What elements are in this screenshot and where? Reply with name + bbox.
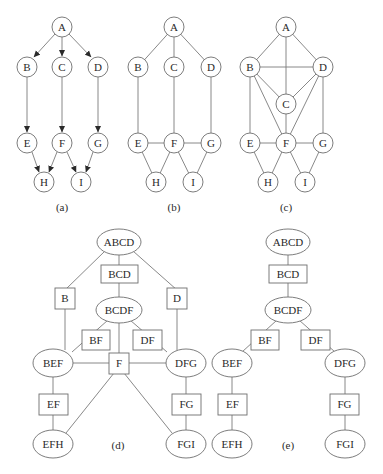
- clique-label: EFH: [43, 438, 64, 450]
- panel-b-nodes: A B C D E F G H I: [128, 17, 221, 192]
- panel-b-moral-graph: A B C D E F G H I (b): [128, 17, 221, 214]
- separator-label: DF: [140, 334, 154, 346]
- separator-ef: EF: [39, 394, 68, 415]
- caption-b: (b): [168, 201, 181, 214]
- node-h: H: [258, 172, 278, 192]
- panel-d-junction-graph: ABCD BCD B D BCDF BF DF BEF F DFG EF FG …: [33, 229, 206, 458]
- node-label: I: [303, 176, 307, 188]
- clique-fgi: FGI: [325, 430, 365, 458]
- separator-label: BF: [258, 334, 271, 346]
- clique-bcdf: BCDF: [265, 297, 311, 323]
- node-b: B: [128, 57, 148, 77]
- separator-f: F: [109, 353, 129, 374]
- node-label: G: [207, 137, 215, 149]
- node-label: I: [191, 176, 195, 188]
- separator-bf: BF: [251, 330, 279, 350]
- separator-bf: BF: [82, 330, 110, 350]
- separator-b: B: [55, 288, 75, 309]
- node-label: E: [135, 137, 142, 149]
- node-label: E: [24, 137, 31, 149]
- node-label: B: [23, 61, 30, 73]
- clique-label: ABCD: [273, 236, 304, 248]
- panel-c-nodes: A B C D E F G H I: [240, 17, 333, 192]
- node-g: G: [313, 133, 333, 153]
- node-i: I: [71, 172, 91, 192]
- node-i: I: [183, 172, 203, 192]
- caption-c: (c): [280, 201, 293, 214]
- clique-label: FGI: [177, 438, 195, 450]
- separator-bcd: BCD: [101, 265, 138, 283]
- node-f: F: [52, 133, 72, 153]
- clique-label: BEF: [43, 357, 63, 369]
- panel-b-edges: [138, 27, 211, 182]
- node-e: E: [128, 133, 148, 153]
- separator-label: EF: [47, 398, 60, 410]
- separator-bcd: BCD: [269, 265, 307, 283]
- separator-df: DF: [301, 330, 330, 350]
- node-label: A: [170, 21, 178, 33]
- panel-a-nodes: A B C D E F G H I: [17, 17, 108, 192]
- clique-bef: BEF: [212, 349, 252, 377]
- separator-label: BCD: [108, 268, 131, 280]
- separator-label: B: [61, 292, 68, 304]
- node-label: I: [79, 176, 83, 188]
- separator-label: DF: [308, 334, 322, 346]
- node-label: B: [246, 61, 253, 73]
- caption-e: (e): [282, 439, 295, 452]
- clique-label: DFG: [334, 357, 356, 369]
- caption-a: (a): [56, 201, 69, 214]
- clique-label: BCDF: [274, 304, 303, 316]
- clique-label: ABCD: [104, 236, 135, 248]
- clique-efh: EFH: [212, 430, 252, 458]
- node-i: I: [295, 172, 315, 192]
- node-g: G: [201, 133, 221, 153]
- node-d: D: [88, 57, 108, 77]
- node-label: C: [282, 98, 289, 110]
- caption-d: (d): [112, 439, 125, 452]
- clique-dfg: DFG: [166, 349, 206, 377]
- node-b: B: [17, 57, 37, 77]
- node-f: F: [164, 133, 184, 153]
- node-label: A: [282, 21, 290, 33]
- node-h: H: [146, 172, 166, 192]
- edge-f-efh: [66, 373, 114, 433]
- edge-abcd-b: [65, 251, 105, 290]
- separator-label: F: [116, 357, 122, 369]
- edge-g-i: [86, 152, 93, 172]
- edge-f-h: [49, 152, 57, 172]
- node-label: H: [40, 176, 48, 188]
- node-c: C: [164, 57, 184, 77]
- node-g: G: [88, 133, 108, 153]
- edge-f-i: [67, 152, 76, 172]
- panel-e-junction-tree: ABCD BCD BCDF BF DF BEF DFG EF FG EFH FG…: [212, 229, 365, 458]
- node-f: F: [276, 133, 296, 153]
- clique-label: DFG: [175, 357, 197, 369]
- clique-fgi: FGI: [166, 430, 206, 458]
- clique-label: BCDF: [105, 304, 134, 316]
- node-c: C: [276, 94, 296, 114]
- node-h: H: [34, 172, 54, 192]
- edge-e-h: [32, 152, 39, 172]
- node-a: A: [276, 17, 296, 37]
- clique-abcd: ABCD: [266, 229, 310, 255]
- separator-ef: EF: [218, 394, 247, 415]
- node-label: B: [134, 61, 141, 73]
- separator-label: FG: [337, 398, 351, 410]
- node-label: C: [58, 61, 65, 73]
- separator-fg: FG: [172, 394, 201, 415]
- node-d: D: [201, 57, 221, 77]
- node-label: F: [171, 137, 177, 149]
- node-label: G: [94, 137, 102, 149]
- edge-a-d: [69, 34, 91, 57]
- separator-label: FG: [179, 398, 193, 410]
- node-label: H: [264, 176, 272, 188]
- node-a: A: [52, 17, 72, 37]
- panel-a-directed-graph: A B C D E F G H I (a): [17, 17, 108, 214]
- node-d: D: [313, 57, 333, 77]
- edge-f-fgi: [124, 373, 172, 433]
- panel-e-nodes: ABCD BCD BCDF BF DF BEF DFG EF FG EFH FG…: [212, 229, 365, 458]
- clique-abcd: ABCD: [97, 229, 141, 255]
- clique-label: EFH: [222, 438, 243, 450]
- node-e: E: [240, 133, 260, 153]
- node-label: H: [152, 176, 160, 188]
